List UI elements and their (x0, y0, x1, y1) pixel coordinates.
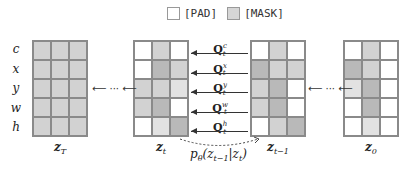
transition-curve-icon (0, 0, 419, 169)
transition-label: pθ(zt−1|zt) (190, 147, 247, 163)
